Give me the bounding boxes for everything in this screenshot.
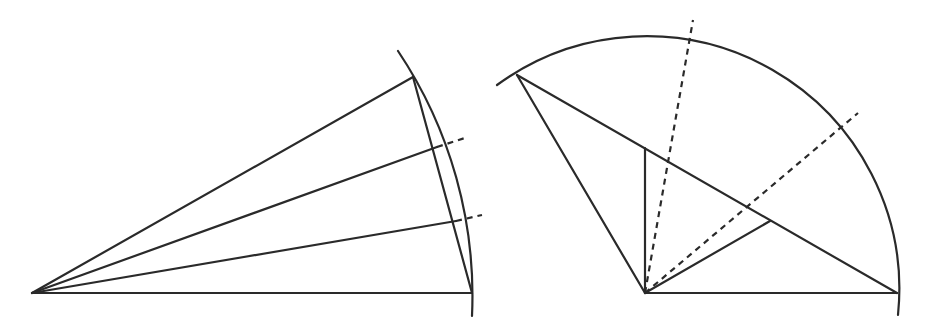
- left-ray-1: [32, 147, 437, 293]
- right-dashed-line-1: [645, 20, 693, 293]
- left-sector-figure: [32, 51, 482, 316]
- right-left-radius: [517, 75, 645, 293]
- left-arc: [398, 51, 472, 316]
- right-inner-segment: [645, 221, 770, 293]
- right-dashed-line-2: [645, 113, 858, 293]
- right-chord: [517, 75, 897, 293]
- left-ray-2-extension: [456, 215, 482, 221]
- left-ray-1-extension: [437, 137, 468, 147]
- geometry-diagram: [0, 0, 928, 328]
- left-chord: [413, 77, 472, 293]
- right-arc: [497, 36, 899, 315]
- right-sector-figure: [497, 20, 899, 315]
